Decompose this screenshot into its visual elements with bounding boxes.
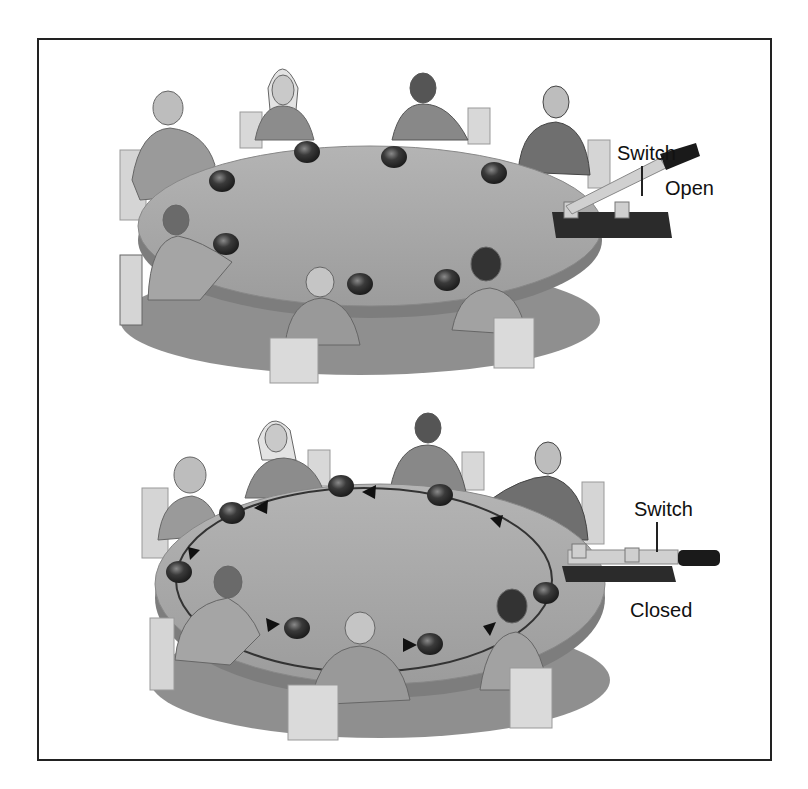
person-back-center (392, 73, 468, 140)
knife-switch-closed (562, 544, 720, 582)
state-label-open: Open (665, 178, 714, 198)
open-circuit-illustration (0, 0, 808, 400)
switch-leader-line-bottom (656, 522, 658, 552)
panel-closed-circuit: Switch Closed (0, 400, 808, 762)
person-back-right (518, 86, 590, 175)
panel-open-circuit: Switch Open (0, 0, 808, 400)
person-back-center-2 (390, 413, 466, 492)
switch-leader-line-top (641, 166, 643, 196)
person-back-blonde (255, 69, 314, 140)
state-label-closed: Closed (630, 600, 692, 620)
switch-label-top: Switch (617, 143, 676, 163)
closed-circuit-illustration (0, 400, 808, 762)
switch-label-bottom: Switch (634, 499, 693, 519)
